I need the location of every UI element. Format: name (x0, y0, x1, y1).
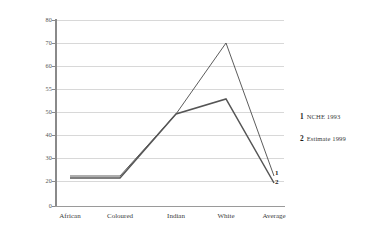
legend-label-1: NCHE 1993 (307, 113, 341, 120)
legend-item-nche-1993: 1 NCHE 1993 (300, 112, 366, 121)
series-line-nche-1993 (70, 43, 274, 176)
x-tick-label-white: White (217, 212, 234, 220)
endpoint-tag-series-2: 2 (275, 179, 279, 186)
line-chart-figure: 80 70 60 55 50 40 30 20 0 1 2 African Co… (0, 0, 368, 242)
legend-label-2: Estimate 1999 (307, 135, 346, 142)
x-tick-label-coloured: Coloured (107, 212, 133, 220)
x-tick-label-average: Average (262, 212, 285, 220)
legend-key-2: 2 (300, 134, 304, 143)
x-tick-label-african: African (59, 212, 80, 220)
series-line-estimate-1999 (70, 99, 274, 183)
endpoint-tag-series-1: 1 (275, 170, 279, 177)
chart-legend: 1 NCHE 1993 2 Estimate 1999 (300, 112, 366, 156)
x-tick-label-indian: Indian (167, 212, 185, 220)
legend-key-1: 1 (300, 112, 304, 121)
legend-item-estimate-1999: 2 Estimate 1999 (300, 134, 366, 143)
